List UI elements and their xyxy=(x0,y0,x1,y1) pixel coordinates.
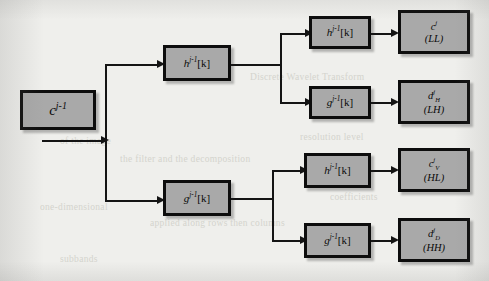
output-box-hl: cjV (HL) xyxy=(398,148,470,192)
ghost-text: subbands xyxy=(60,254,98,264)
output-hl-label: cjV (HL) xyxy=(424,156,444,185)
split2-upper-trunk xyxy=(280,33,282,103)
wavelet-filter-bank-diagram: Discrete Wavelet Transform of the image … xyxy=(0,0,489,281)
stage2-highpass-hh-filter-label: gj-1[k] xyxy=(324,234,350,247)
stage1-highpass-filter-box: gj-1[k] xyxy=(163,180,231,216)
stage1-lowpass-filter-label: hj-1[k] xyxy=(184,57,210,70)
input-box-approximation: cj-1 xyxy=(20,90,96,130)
output-box-lh: djH (LH) xyxy=(398,80,470,124)
ghost-text: Discrete Wavelet Transform xyxy=(250,72,365,82)
input-box-label: cj-1 xyxy=(49,101,67,118)
stage2-lowpass-hl-filter-label: hj-1[k] xyxy=(324,164,350,177)
split1-upper-line xyxy=(105,64,161,66)
input-arrow-line xyxy=(42,140,104,142)
stage2-highpass-lh-filter-label: gj-1[k] xyxy=(327,96,353,109)
stage2-lowpass-ll-filter-box: hj-1[k] xyxy=(309,16,371,49)
stage1-highpass-filter-label: gj-1[k] xyxy=(184,192,210,205)
split1-trunk xyxy=(105,65,107,201)
ghost-text: applied along rows then columns xyxy=(150,218,285,228)
split1-lower-line xyxy=(105,200,161,202)
stage2-highpass-hh-filter-box: gj-1[k] xyxy=(304,223,371,258)
split3-lower-stem xyxy=(229,198,273,200)
stage1-lowpass-filter-box: hj-1[k] xyxy=(163,45,231,81)
split3-lower-trunk xyxy=(272,170,274,241)
ghost-text: coefficients xyxy=(330,192,378,202)
output-ll-label: cj (LL) xyxy=(425,19,444,46)
ghost-text: one-dimensional xyxy=(40,202,108,212)
ghost-text: the filter and the decomposition xyxy=(120,154,250,164)
ghost-text: resolution level xyxy=(300,132,364,142)
output-box-ll: cj (LL) xyxy=(398,10,470,54)
output-box-hh: djD (HH) xyxy=(398,218,470,262)
output-hh-label: djD (HH) xyxy=(423,226,445,255)
stage2-lowpass-ll-filter-label: hj-1[k] xyxy=(327,26,353,39)
output-lh-label: djH (LH) xyxy=(424,88,444,117)
stage2-lowpass-hl-filter-box: hj-1[k] xyxy=(304,153,371,188)
stage2-highpass-lh-filter-box: gj-1[k] xyxy=(309,86,371,119)
split2-upper-stem xyxy=(229,64,281,66)
